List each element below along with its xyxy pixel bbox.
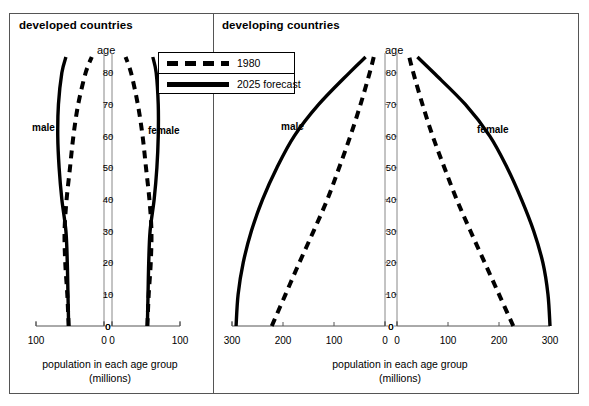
series-line-1980-male: [272, 57, 374, 326]
legend: 1980 2025 forecast: [158, 52, 295, 94]
y-tick-label: 30: [386, 226, 397, 237]
y-tick-label: 50: [386, 162, 397, 173]
legend-swatch-dashed-icon: [167, 61, 229, 66]
y-tick-label: 70: [386, 99, 397, 110]
x-tick-label: 0: [394, 335, 400, 346]
y-tick-label: 20: [386, 257, 397, 268]
legend-entry-2025: 2025 forecast: [159, 73, 294, 95]
x-tick-label: 200: [491, 335, 508, 346]
legend-swatch-solid-icon: [167, 82, 229, 87]
x-tick-label: 300: [224, 335, 241, 346]
population-pyramid-figure: developed countries age male female 0102…: [0, 0, 589, 406]
series-line-2025-forecast-male: [236, 57, 366, 326]
y-tick-label: 40: [386, 194, 397, 205]
x-tick-label: 100: [440, 335, 457, 346]
series-line-1980-female: [409, 57, 513, 326]
y-tick-label: 10: [386, 289, 397, 300]
center-zero-label: 0: [388, 321, 393, 332]
legend-label-2025: 2025 forecast: [237, 78, 301, 90]
series-line-2025-forecast-female: [417, 57, 550, 326]
x-axis-caption-developing-line1: population in each age group: [240, 358, 560, 370]
y-tick-label: 60: [386, 131, 397, 142]
x-tick-label: 300: [542, 335, 559, 346]
legend-entry-1980: 1980: [159, 53, 294, 74]
legend-label-1980: 1980: [237, 57, 260, 69]
y-tick-label: 80: [386, 67, 397, 78]
x-tick-label: 0: [382, 335, 388, 346]
x-tick-label: 100: [326, 335, 343, 346]
x-tick-label: 200: [275, 335, 292, 346]
x-axis-caption-developing-line2: (millions): [240, 372, 560, 384]
